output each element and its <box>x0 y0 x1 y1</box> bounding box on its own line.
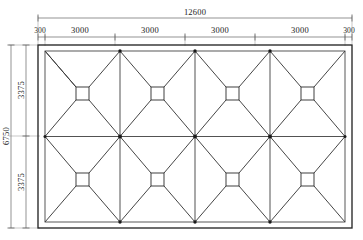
plan-drawing-canvas: 12600 300 3000 3000 3000 3000 300 6750 <box>0 0 363 240</box>
hub-node <box>76 173 89 186</box>
hub-node <box>76 87 89 100</box>
structural-drawing: 12600 300 3000 3000 3000 3000 300 6750 <box>0 0 363 240</box>
overall-width-label: 12600 <box>184 7 206 17</box>
hub-node <box>151 87 164 100</box>
top-dim-label-1: 3000 <box>71 25 89 35</box>
top-dim-label-5: 300 <box>343 26 355 35</box>
top-dim-label-2: 3000 <box>141 25 159 35</box>
top-dim-label-3: 3000 <box>211 25 229 35</box>
left-dim-label-0: 3375 <box>16 81 26 99</box>
hub-node <box>226 173 239 186</box>
top-dim-label-4: 3000 <box>291 25 309 35</box>
hub-node <box>301 173 314 186</box>
hub-node <box>301 87 314 100</box>
left-dim-label-1: 3375 <box>16 173 26 191</box>
hub-node <box>151 173 164 186</box>
top-dim-label-0: 300 <box>34 26 46 35</box>
hub-node <box>226 87 239 100</box>
